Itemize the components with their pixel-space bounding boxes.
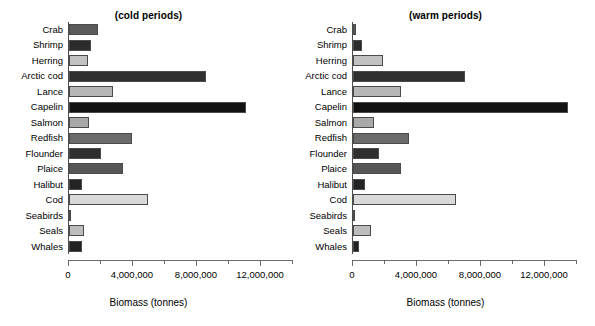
category-label: Herring (8, 53, 66, 68)
category-label: Seabirds (292, 208, 350, 223)
x-tick-minor (228, 260, 229, 264)
x-tick-major (416, 260, 417, 266)
bar-row (353, 146, 595, 161)
bar-row (69, 22, 298, 37)
bar (353, 71, 464, 82)
bar (69, 133, 132, 144)
bar (69, 194, 147, 205)
category-label: Plaice (292, 161, 350, 176)
x-tick-minor (448, 260, 449, 264)
bar-row (353, 223, 595, 238)
bar (69, 71, 206, 82)
bar-row (353, 177, 595, 192)
x-tick-minor (384, 260, 385, 264)
bar-row (353, 239, 595, 254)
panel-title-warm: (warm periods) (297, 10, 594, 21)
bar (353, 102, 567, 113)
bar (353, 163, 400, 174)
bar (69, 241, 82, 252)
category-label: Seals (292, 223, 350, 238)
bar-row (69, 192, 298, 207)
bar (69, 86, 113, 97)
x-tick-label: 12,000,000 (520, 269, 568, 280)
bar-row (353, 84, 595, 99)
category-label: Cod (8, 192, 66, 207)
bar-row (353, 37, 595, 52)
x-tick-major (260, 260, 261, 266)
x-tick-major (196, 260, 197, 266)
x-tick-minor (292, 260, 293, 264)
bar (69, 55, 88, 66)
x-axis-line (352, 260, 576, 261)
plot-area-cold: CrabShrimpHerringArctic codLanceCapelinS… (0, 22, 297, 254)
category-label: Capelin (292, 99, 350, 114)
category-label: Flounder (292, 146, 350, 161)
bar (353, 194, 456, 205)
bar-row (353, 161, 595, 176)
bar-row (353, 192, 595, 207)
category-label: Capelin (8, 99, 66, 114)
bar (353, 148, 378, 159)
category-label: Lance (8, 84, 66, 99)
bar (69, 117, 89, 128)
category-label: Herring (292, 53, 350, 68)
bar-row (353, 208, 595, 223)
bar-row (69, 53, 298, 68)
x-tick-label: 8,000,000 (459, 269, 501, 280)
bar (353, 24, 356, 35)
bar-row (353, 68, 595, 83)
category-label: Whales (292, 239, 350, 254)
category-labels-warm: CrabShrimpHerringArctic codLanceCapelinS… (292, 22, 350, 254)
category-label: Halibut (292, 177, 350, 192)
plot-area-warm: CrabShrimpHerringArctic codLanceCapelinS… (297, 22, 594, 254)
category-label: Arctic cod (8, 68, 66, 83)
category-labels-cold: CrabShrimpHerringArctic codLanceCapelinS… (8, 22, 66, 254)
bar-row (353, 130, 595, 145)
bar (353, 225, 371, 236)
category-label: Shrimp (292, 37, 350, 52)
bar-row (353, 115, 595, 130)
category-label: Flounder (8, 146, 66, 161)
category-label: Crab (292, 22, 350, 37)
bar-row (69, 37, 298, 52)
category-label: Salmon (292, 115, 350, 130)
bar-row (69, 177, 298, 192)
bar (69, 40, 91, 51)
bar (69, 148, 100, 159)
panel-cold-periods: (cold periods) CrabShrimpHerringArctic c… (0, 0, 297, 326)
x-tick-minor (576, 260, 577, 264)
bar (69, 179, 81, 190)
x-tick-major (544, 260, 545, 266)
bar (69, 225, 84, 236)
bar (69, 102, 246, 113)
x-tick-label: 4,000,000 (111, 269, 153, 280)
x-tick-major (480, 260, 481, 266)
x-tick-major (68, 260, 69, 266)
bar (353, 40, 362, 51)
category-label: Shrimp (8, 37, 66, 52)
bar-row (69, 208, 298, 223)
x-tick-label: 12,000,000 (236, 269, 284, 280)
bar-row (69, 223, 298, 238)
bar-row (69, 99, 298, 114)
bar (353, 179, 365, 190)
bar (353, 55, 383, 66)
x-axis-title-cold: Biomass (tonnes) (0, 297, 297, 308)
bar (353, 210, 355, 221)
bar-row (353, 53, 595, 68)
x-tick-major (132, 260, 133, 266)
category-label: Lance (292, 84, 350, 99)
bar-rows-cold (69, 22, 298, 254)
x-tick-label: 4,000,000 (395, 269, 437, 280)
bar (353, 117, 373, 128)
bar (69, 210, 71, 221)
bar (69, 24, 98, 35)
category-label: Seabirds (8, 208, 66, 223)
category-label: Arctic cod (292, 68, 350, 83)
bar (353, 241, 359, 252)
category-label: Seals (8, 223, 66, 238)
category-label: Salmon (8, 115, 66, 130)
bar-row (353, 99, 595, 114)
bar-row (69, 161, 298, 176)
bar-row (69, 146, 298, 161)
